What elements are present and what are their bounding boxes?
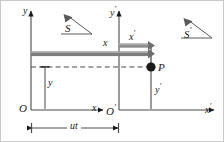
origin-o-label: O [19, 103, 27, 114]
origin-o-prime-label: O′ [106, 103, 116, 117]
frame-s-prime-label: S′ [184, 26, 191, 40]
point-p-icon [146, 62, 155, 71]
right-frame-axes [119, 11, 214, 110]
y-measure-label: y [48, 78, 52, 88]
x-measure-bar [31, 49, 155, 59]
x-measure-label: x [103, 38, 107, 48]
y-prime-measure-label: y′ [155, 83, 161, 95]
diagram-canvas [0, 0, 224, 142]
physics-diagram-figure: y S x x y O y′ S′ x′ x′ y′ O′ P ut [0, 0, 224, 142]
ut-dimension-label: ut [67, 121, 81, 131]
x-prime-measure-label: x′ [129, 30, 135, 42]
y-prime-axis-label: y′ [110, 6, 116, 18]
frame-s-label: S [65, 23, 71, 34]
y-measure-line [42, 67, 47, 109]
point-p-label: P [158, 62, 165, 73]
y-axis-label: y [23, 6, 27, 16]
x-prime-axis-label: x′ [205, 103, 211, 115]
x-prime-measure-bar [119, 41, 155, 50]
x-axis-label: x [92, 103, 96, 113]
